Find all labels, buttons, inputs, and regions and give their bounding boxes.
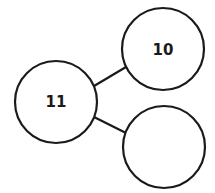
number-bond-diagram: 11 10 (0, 0, 215, 193)
edge-whole-to-bottom (94, 117, 126, 133)
node-part-top: 10 (122, 8, 204, 90)
node-part-bottom[interactable] (123, 106, 205, 188)
node-whole: 11 (15, 61, 97, 143)
node-whole-label: 11 (46, 93, 67, 111)
edge-whole-to-top (94, 67, 126, 86)
node-part-top-label: 10 (153, 41, 174, 59)
